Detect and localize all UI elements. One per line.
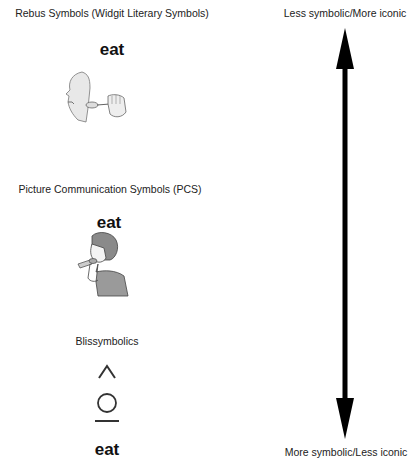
face-with-spoon-icon bbox=[60, 68, 140, 124]
bliss-eat-icon bbox=[90, 358, 130, 424]
boy-eating-icon bbox=[68, 230, 132, 300]
rebus-title: Rebus Symbols (Widgit Literary Symbols) bbox=[15, 7, 209, 19]
pcs-title: Picture Communication Symbols (PCS) bbox=[18, 183, 201, 195]
double-headed-arrow-icon bbox=[332, 28, 358, 440]
bliss-title: Blissymbolics bbox=[75, 335, 138, 347]
scale-bottom-label: More symbolic/Less iconic bbox=[285, 446, 408, 458]
bliss-word: eat bbox=[95, 440, 120, 460]
rebus-word: eat bbox=[100, 40, 125, 60]
scale-top-label: Less symbolic/More iconic bbox=[284, 7, 407, 19]
